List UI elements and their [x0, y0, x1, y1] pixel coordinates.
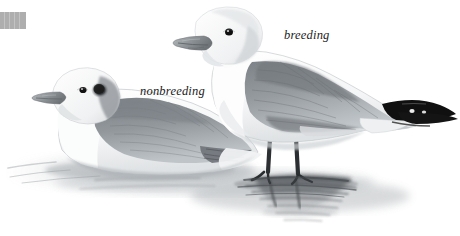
gull-illustration-artwork	[0, 0, 460, 236]
label-nonbreeding: nonbreeding	[140, 84, 205, 99]
label-breeding: breeding	[284, 28, 330, 43]
breeding-wingtips	[382, 100, 458, 126]
gray-corner-swatch	[0, 12, 26, 29]
illustration-plate: breeding nonbreeding	[0, 0, 460, 236]
